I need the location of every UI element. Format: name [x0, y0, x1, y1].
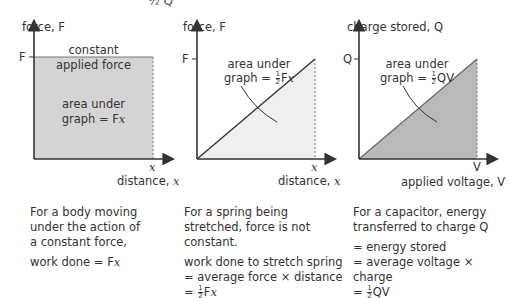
area-label-line2: graph = 12QV — [369, 71, 465, 86]
x-axis-label-3: applied voltage, V — [401, 175, 505, 189]
x-axis-label-2: distance, x — [278, 174, 341, 188]
area-label-line1: area under — [214, 57, 304, 71]
x-tick-3: V — [473, 160, 481, 174]
area-label-line1: area under — [372, 57, 462, 71]
top-label-line2: applied force — [34, 58, 153, 72]
area-label-line2: graph = Fx — [34, 112, 153, 126]
y-axis-label-1: force, F — [22, 20, 65, 34]
x-axis-label-1: distance, x — [117, 174, 180, 188]
graph-capacitor — [354, 22, 496, 159]
caption-spring: For a spring being stretched, force is n… — [184, 205, 343, 298]
graph-spring — [192, 22, 334, 159]
result-work-done: work done = Fx — [30, 255, 140, 270]
y-axis-label-3: charge stored, Q — [347, 20, 443, 34]
caption-capacitor: For a capacitor, energy transferred to c… — [353, 205, 509, 298]
area-label-line1: area under — [34, 97, 153, 111]
x-tick-2: x — [311, 160, 318, 174]
top-label-line1: constant — [34, 43, 153, 57]
x-tick-1: x — [149, 160, 156, 174]
y-tick-2: F — [182, 52, 189, 66]
y-tick-3: Q — [343, 52, 352, 66]
area-label-line2: graph = 12Fx — [211, 71, 307, 86]
y-axis-label-2: force, F — [183, 20, 226, 34]
y-tick-1: F — [19, 50, 26, 64]
caption-constant-force: For a body moving under the action of a … — [30, 205, 140, 270]
